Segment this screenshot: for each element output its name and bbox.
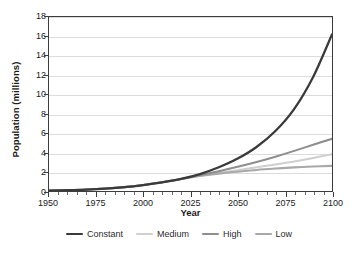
legend-swatch-low — [255, 233, 272, 235]
y-tick-label-12: 12 — [8, 70, 46, 80]
legend-label-constant: Constant — [87, 229, 123, 239]
x-tick-minor-2035 — [210, 192, 211, 195]
legend-item-constant[interactable]: Constant — [66, 229, 123, 239]
y-tick-label-18: 18 — [8, 11, 46, 21]
x-tick-minor-1980 — [105, 192, 106, 195]
y-tick-label-6: 6 — [8, 128, 46, 138]
legend-item-high[interactable]: High — [202, 229, 242, 239]
y-axis-ticks: 024681012141618 — [0, 0, 46, 210]
plot-area — [48, 16, 333, 192]
legend-swatch-constant — [66, 233, 83, 235]
x-tick-minor-2005 — [153, 192, 154, 195]
y-tick-label-14: 14 — [8, 50, 46, 60]
legend-swatch-high — [202, 233, 219, 235]
legend-label-high: High — [223, 229, 242, 239]
legend-item-medium[interactable]: Medium — [136, 229, 189, 239]
x-tick-major-2050 — [238, 192, 239, 197]
y-tick-label-4: 4 — [8, 148, 46, 158]
x-tick-minor-2085 — [305, 192, 306, 195]
y-tick-label-0: 0 — [8, 187, 46, 197]
y-tick-label-2: 2 — [8, 167, 46, 177]
x-tick-major-2100 — [333, 192, 334, 197]
x-tick-minor-2060 — [257, 192, 258, 195]
x-tick-minor-1970 — [86, 192, 87, 195]
y-tick-label-16: 16 — [8, 31, 46, 41]
x-tick-minor-2080 — [295, 192, 296, 195]
x-tick-minor-2010 — [162, 192, 163, 195]
x-tick-minor-2055 — [248, 192, 249, 195]
y-tick-label-10: 10 — [8, 89, 46, 99]
x-tick-minor-2090 — [314, 192, 315, 195]
population-projection-chart: Population (millions) 024681012141618 19… — [0, 0, 358, 257]
series-line-low — [49, 166, 332, 191]
x-tick-minor-2020 — [181, 192, 182, 195]
x-tick-minor-2070 — [276, 192, 277, 195]
x-tick-minor-2030 — [200, 192, 201, 195]
x-tick-major-1950 — [48, 192, 49, 197]
series-line-high — [49, 139, 332, 191]
x-tick-minor-1995 — [134, 192, 135, 195]
x-tick-minor-1965 — [77, 192, 78, 195]
legend-swatch-medium — [136, 233, 153, 235]
x-axis-title: Year — [48, 207, 333, 218]
x-tick-minor-1990 — [124, 192, 125, 195]
y-tick-label-8: 8 — [8, 109, 46, 119]
series-lines — [49, 17, 332, 191]
x-tick-major-2025 — [191, 192, 192, 197]
x-tick-minor-1985 — [115, 192, 116, 195]
legend-label-low: Low — [276, 229, 293, 239]
x-tick-major-2000 — [143, 192, 144, 197]
x-tick-minor-2040 — [219, 192, 220, 195]
chart-legend: ConstantMediumHighLow — [0, 229, 358, 239]
series-line-medium — [49, 154, 332, 190]
x-tick-major-1975 — [96, 192, 97, 197]
x-tick-minor-1960 — [67, 192, 68, 195]
x-tick-minor-1955 — [58, 192, 59, 195]
x-tick-major-2075 — [286, 192, 287, 197]
legend-label-medium: Medium — [157, 229, 189, 239]
x-tick-minor-2065 — [267, 192, 268, 195]
x-tick-minor-2015 — [172, 192, 173, 195]
legend-item-low[interactable]: Low — [255, 229, 293, 239]
x-tick-minor-2095 — [324, 192, 325, 195]
x-tick-minor-2045 — [229, 192, 230, 195]
